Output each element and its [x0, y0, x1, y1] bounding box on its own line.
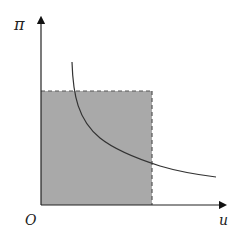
x-axis-label: u [219, 212, 228, 228]
y-axis-label: π [13, 15, 25, 34]
origin-label: O [25, 212, 37, 228]
diagram-canvas: π O u [0, 0, 241, 238]
shaded-region [41, 91, 152, 205]
